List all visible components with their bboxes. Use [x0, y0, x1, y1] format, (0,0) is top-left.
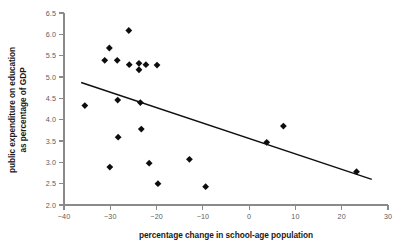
data-point — [138, 126, 145, 133]
x-tick-label: −30 — [104, 212, 117, 221]
y-tick-label: 6.0 — [46, 30, 56, 39]
y-tick-label: 6.5 — [46, 9, 56, 18]
data-point — [136, 66, 143, 73]
data-point — [143, 61, 150, 68]
data-point — [81, 102, 88, 109]
y-axis-title: public expenditure on education as perce… — [7, 47, 28, 173]
y-tick-label: 4.5 — [46, 94, 56, 103]
y-tick-label: 4.0 — [46, 115, 56, 124]
y-tick-label: 3.5 — [46, 137, 56, 146]
x-tick-label: 0 — [247, 212, 251, 221]
data-point — [114, 57, 121, 64]
x-tick-label: −10 — [197, 212, 210, 221]
x-tick-label: −40 — [58, 212, 71, 221]
data-point — [126, 61, 133, 68]
data-points-group — [81, 27, 359, 190]
y-axis-title-line2: as percentage of GDP — [18, 67, 28, 153]
data-point — [146, 160, 153, 167]
data-point — [186, 156, 193, 163]
chart-canvas: public expenditure on education as perce… — [0, 0, 412, 250]
x-axis-ticks: −40 −30 −20 −10 0 10 20 30 — [58, 205, 392, 221]
x-tick-label: 10 — [291, 212, 299, 221]
data-point — [106, 45, 113, 52]
y-tick-label: 2.5 — [46, 179, 56, 188]
data-point — [137, 99, 144, 106]
y-tick-label: 3.0 — [46, 158, 56, 167]
y-axis-title-line1: public expenditure on education — [7, 47, 17, 173]
x-tick-label: −20 — [150, 212, 163, 221]
data-point — [101, 57, 108, 64]
data-point — [154, 62, 161, 69]
data-point — [155, 180, 162, 187]
data-point — [106, 164, 113, 171]
data-point — [125, 27, 132, 34]
x-axis-title: percentage change in school-age populati… — [139, 230, 313, 240]
scatter-plot-figure: public expenditure on education as perce… — [0, 0, 412, 250]
y-axis-ticks: 2.0 2.5 3.0 3.5 4.0 4.5 5.0 5.5 6.0 6.5 — [46, 9, 64, 210]
data-point — [202, 183, 209, 190]
trend-line — [81, 83, 372, 180]
data-point — [136, 60, 143, 67]
x-tick-label: 30 — [384, 212, 392, 221]
x-tick-label: 20 — [338, 212, 346, 221]
data-point — [115, 134, 122, 141]
y-tick-label: 5.0 — [46, 73, 56, 82]
y-tick-label: 2.0 — [46, 201, 56, 210]
data-point — [114, 97, 121, 104]
y-tick-label: 5.5 — [46, 51, 56, 60]
data-point — [280, 123, 287, 130]
